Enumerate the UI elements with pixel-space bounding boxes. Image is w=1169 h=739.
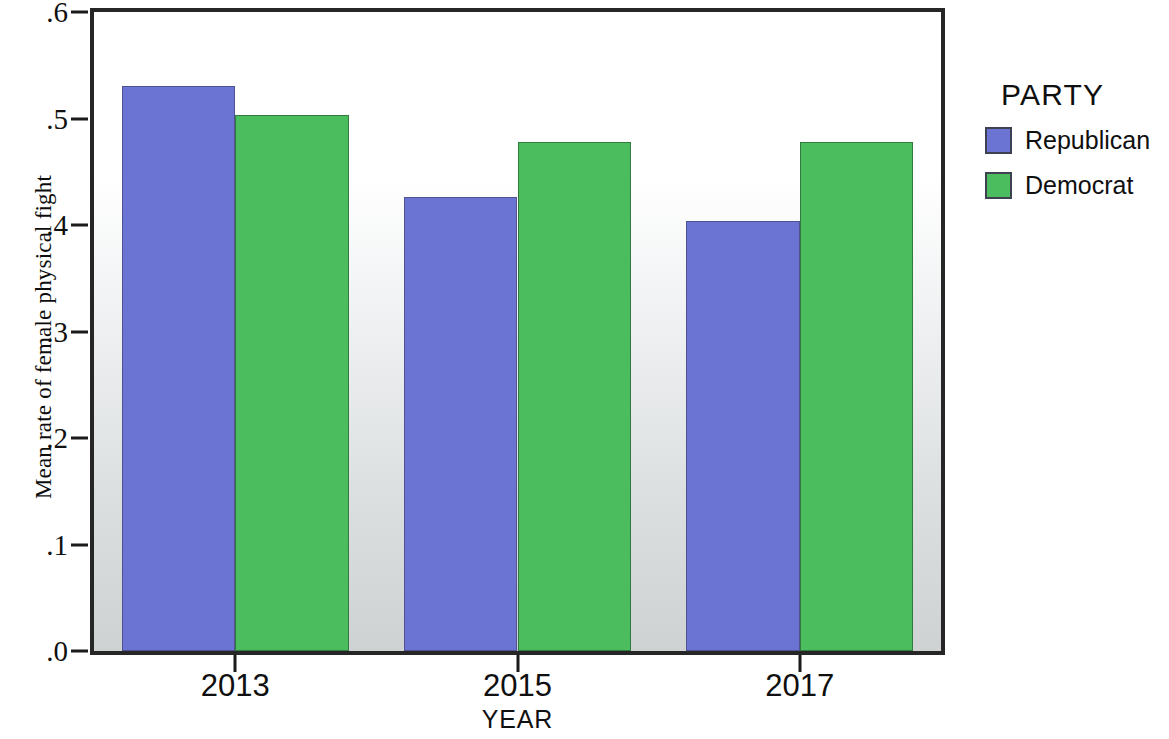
y-axis-tick-label: .2 — [46, 422, 68, 455]
bar-2013-democrat — [235, 115, 348, 651]
bar-2015-democrat — [518, 142, 631, 651]
y-axis-tick-mark — [71, 224, 88, 227]
bar-2017-republican — [686, 221, 799, 651]
y-axis-tick-mark — [71, 330, 88, 333]
y-axis-tick-label: .5 — [46, 102, 68, 135]
legend-item-label: Republican — [1025, 126, 1150, 155]
y-axis-tick-label: .1 — [46, 528, 68, 561]
y-axis-tick-mark — [71, 117, 88, 120]
legend-entries: RepublicanDemocrat — [985, 126, 1169, 200]
bar-2017-democrat — [800, 142, 913, 651]
bar-2013-republican — [122, 86, 235, 652]
y-axis-tick-mark — [71, 543, 88, 546]
bar-chart-figure: Mean rate of female physical fight .0.1.… — [0, 0, 1169, 739]
plot-area — [90, 8, 945, 655]
bar-2015-republican — [404, 197, 517, 651]
legend: PARTY RepublicanDemocrat — [985, 78, 1169, 216]
legend-item-republican: Republican — [985, 126, 1169, 155]
legend-item-label: Democrat — [1025, 171, 1133, 200]
bars-container — [94, 12, 941, 651]
y-axis-tick-label: .4 — [46, 209, 68, 242]
x-axis-title: YEAR — [90, 705, 945, 734]
legend-title: PARTY — [1001, 78, 1169, 112]
y-axis-tick-mark — [71, 437, 88, 440]
legend-swatch-icon — [985, 127, 1012, 154]
y-axis-tick-group: .0.1.2.3.4.5.6 — [0, 0, 90, 739]
y-axis-tick-label: .0 — [46, 635, 68, 668]
y-axis-tick-mark — [71, 650, 88, 653]
y-axis-tick-label: .3 — [46, 315, 68, 348]
x-axis-tick-label: 2017 — [765, 668, 834, 704]
legend-item-democrat: Democrat — [985, 171, 1169, 200]
y-axis-tick-label: .6 — [46, 0, 68, 29]
legend-swatch-icon — [985, 172, 1012, 199]
x-axis-tick-label: 2013 — [201, 668, 270, 704]
x-axis-tick-label: 2015 — [483, 668, 552, 704]
y-axis-tick-mark — [71, 11, 88, 14]
